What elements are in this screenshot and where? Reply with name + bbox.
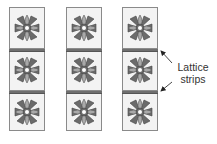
lattice-label-line1: Lattice xyxy=(172,61,214,73)
lattice-label-line2: strips xyxy=(172,73,214,85)
arrow-to-lower-lattice xyxy=(161,82,172,91)
arrow-to-upper-lattice xyxy=(161,51,172,63)
